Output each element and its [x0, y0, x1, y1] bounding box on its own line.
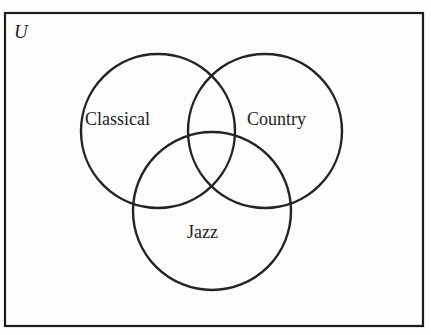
set-circle-jazz	[133, 132, 291, 290]
set-label-jazz: Jazz	[187, 223, 218, 241]
venn-diagram-canvas	[0, 0, 431, 335]
universe-label: U	[14, 22, 28, 41]
venn-diagram-figure: U Classical Country Jazz	[0, 0, 431, 335]
set-label-classical: Classical	[85, 110, 150, 128]
universe-rectangle	[5, 13, 423, 326]
set-label-country: Country	[247, 110, 306, 128]
